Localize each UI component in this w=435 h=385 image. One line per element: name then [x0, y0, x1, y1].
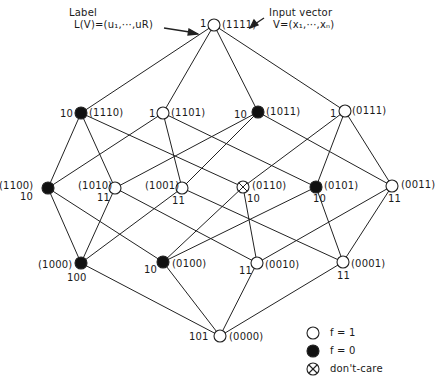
node-label-1010: 11 [97, 192, 110, 203]
node-label-0100: 10 [144, 264, 157, 275]
edge [163, 187, 316, 262]
node-vector-1000: (1000) [38, 259, 72, 270]
open-node-icon [157, 107, 169, 119]
node-vector-1111: (1111) [222, 19, 256, 30]
open-node-icon [337, 256, 349, 268]
node-vector-1110: (1110) [89, 107, 123, 118]
node-label-0101: 10 [313, 193, 326, 204]
edge [115, 112, 258, 188]
node-label-1111: 1 [200, 18, 207, 29]
legend-f1-label: f = 1 [330, 327, 356, 338]
edge [81, 113, 115, 188]
open-node-icon [208, 19, 220, 31]
node-vector-1101: (1101) [171, 107, 205, 118]
edge [345, 111, 392, 186]
filled-node-icon [310, 181, 322, 193]
filled-circle-icon [307, 345, 319, 357]
input-annotation-title: Input vector [269, 7, 332, 19]
open-node-icon [214, 330, 226, 342]
node-vector-0101: (0101) [324, 180, 358, 191]
open-node-icon [251, 257, 263, 269]
edge [163, 262, 220, 336]
edge [81, 25, 214, 113]
node-label-0000: 101 [189, 331, 209, 342]
filled-node-icon [75, 107, 87, 119]
filled-node-icon [157, 256, 169, 268]
open-node-icon [386, 180, 398, 192]
edge [163, 113, 182, 188]
node-vector-0010: (0010) [265, 259, 299, 270]
label-annotation-formula: L(V)=(u₁,···,uR) [74, 19, 153, 31]
node-label-1011: 10 [234, 109, 247, 120]
legend-symbols [307, 327, 319, 375]
node-label-1001: 11 [172, 195, 185, 206]
label-annotation-title: Label [69, 7, 97, 19]
open-node-icon [339, 105, 351, 117]
edge [48, 188, 81, 263]
open-circle-icon [307, 327, 319, 339]
node-vector-0100: (0100) [172, 258, 206, 269]
edge [81, 113, 243, 187]
edge [214, 25, 345, 111]
node-vector-0110: (0110) [252, 180, 286, 191]
legend-f0-label: f = 0 [330, 345, 356, 356]
input-annotation-formula: V=(x₁,···,xₙ) [273, 19, 334, 31]
node-vector-1001: (1001) [145, 180, 179, 191]
node-label-1110: 10 [60, 108, 73, 119]
node-label-0001: 11 [337, 270, 350, 281]
node-vector-1100: (1100) [0, 180, 33, 191]
node-vector-0011: (0011) [401, 179, 435, 190]
node-label-1101: 1 [149, 108, 156, 119]
node-label-0111: 1 [330, 108, 337, 119]
node-vector-1011: (1011) [266, 106, 300, 117]
node-vector-1010: (1010) [78, 180, 112, 191]
node-label-0011: 11 [388, 193, 401, 204]
node-vector-0001: (0001) [351, 258, 385, 269]
node-vector-0000: (0000) [229, 331, 263, 342]
node-label-0110: 10 [247, 193, 260, 204]
edge [214, 25, 258, 112]
edge [163, 25, 214, 113]
filled-node-icon [252, 106, 264, 118]
node-vector-0111: (0111) [352, 105, 386, 116]
filled-node-icon [42, 182, 54, 194]
filled-node-icon [75, 257, 87, 269]
node-label-1100: 10 [20, 191, 33, 202]
edge [243, 111, 345, 187]
edge [115, 188, 257, 263]
edge [343, 186, 392, 262]
edge [258, 112, 392, 186]
label-arrowhead-icon [188, 29, 198, 35]
legend-dontcare-label: don't-care [330, 363, 383, 374]
node-label-0010: 11 [239, 265, 252, 276]
node-label-1000: 100 [67, 272, 87, 283]
